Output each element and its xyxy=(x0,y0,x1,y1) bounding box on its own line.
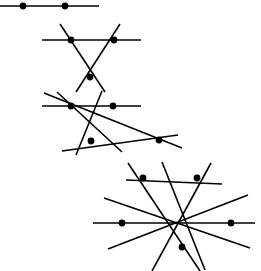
dot-1-1 xyxy=(20,3,27,10)
dot-4-2 xyxy=(194,175,201,182)
dot-2-3 xyxy=(87,74,94,81)
dot-3-4 xyxy=(156,137,163,144)
dot-1-2 xyxy=(62,3,69,10)
dot-4-4 xyxy=(228,220,235,227)
arrangement-canvas xyxy=(0,0,261,271)
line-arrangement-figure xyxy=(0,0,261,271)
dot-3-1 xyxy=(68,103,75,110)
dot-3-2 xyxy=(110,103,117,110)
dot-4-3 xyxy=(119,220,126,227)
dot-3-3 xyxy=(88,138,95,145)
dot-4-5 xyxy=(179,244,186,251)
dot-4-1 xyxy=(140,175,147,182)
dot-2-1 xyxy=(68,37,75,44)
dot-2-2 xyxy=(111,37,118,44)
